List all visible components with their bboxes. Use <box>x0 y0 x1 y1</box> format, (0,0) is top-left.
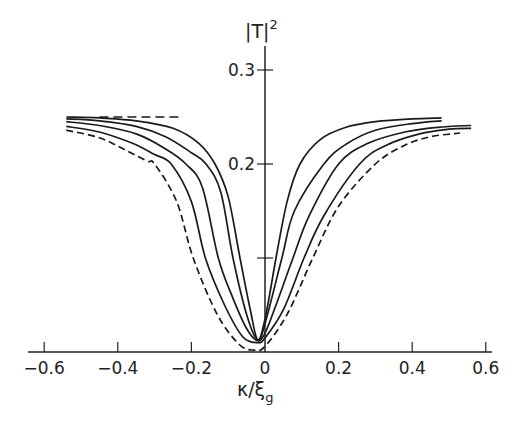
x-tick-label: −0.2 <box>171 358 212 378</box>
x-tick-label: 0 <box>260 358 271 378</box>
x-tick-label: −0.4 <box>97 358 138 378</box>
y-tick-label: 0.3 <box>228 60 255 80</box>
x-ticks: −0.6−0.4−0.200.20.40.6 <box>24 342 500 378</box>
curve-2-line <box>66 119 441 340</box>
x-tick-label: 0.4 <box>399 358 426 378</box>
chart: −0.6−0.4−0.200.20.40.6 0.20.3 |T|2 κ/ξg <box>0 0 526 421</box>
curves <box>66 117 471 351</box>
curve-dashed-line <box>66 130 460 350</box>
x-tick-label: 0.6 <box>472 358 499 378</box>
x-tick-label: −0.6 <box>24 358 65 378</box>
x-axis-title: κ/ξg <box>237 378 273 405</box>
y-axis-title: |T|2 <box>245 17 278 43</box>
y-tick-label: 0.2 <box>228 154 255 174</box>
curve-1-line <box>66 117 441 340</box>
x-tick-label: 0.2 <box>325 358 352 378</box>
